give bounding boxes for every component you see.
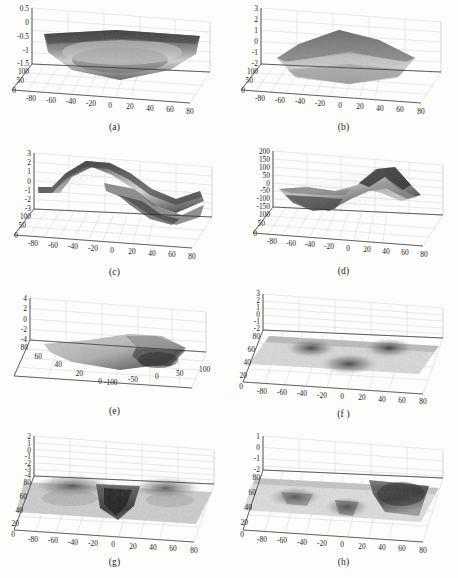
- tick-x: 80: [417, 107, 425, 116]
- tick-x: 0: [338, 101, 342, 110]
- tick-z: 2: [27, 158, 31, 167]
- tick-x: 40: [376, 104, 384, 113]
- tick-x: -80: [257, 535, 267, 544]
- panel-caption-f: (f ): [229, 409, 458, 419]
- panel-caption-b: (b): [229, 122, 458, 132]
- tick-x: 60: [166, 105, 174, 114]
- tick-z: 2: [254, 15, 258, 24]
- tick-x: 60: [398, 396, 406, 405]
- tick-x: -60: [277, 388, 287, 397]
- tick-z: 1: [27, 167, 31, 176]
- tick-x: -40: [68, 242, 78, 251]
- tick-z: -0.5: [17, 32, 29, 41]
- tick-y: 100: [18, 67, 29, 76]
- panel-caption-d: (d): [229, 266, 458, 276]
- tick-x: -80: [255, 94, 265, 103]
- tick-x: -20: [324, 242, 334, 251]
- tick-x: -60: [286, 239, 296, 248]
- tick-y: 60: [20, 492, 28, 501]
- tick-x: 80: [419, 546, 427, 555]
- tick-x: 0: [346, 244, 350, 253]
- tick-x: 100: [199, 365, 210, 374]
- tick-z: 1: [254, 26, 258, 35]
- tick-x: -50: [128, 375, 138, 384]
- tick-x: 50: [176, 369, 184, 378]
- tick-z: -2: [25, 195, 31, 204]
- tick-y: 0: [98, 377, 102, 386]
- panel-caption-e: (e): [0, 406, 229, 416]
- tick-y: 100: [20, 212, 31, 221]
- tick-x: 0: [111, 540, 115, 549]
- tick-x: 60: [168, 250, 176, 259]
- tick-x: 80: [420, 250, 428, 259]
- tick-y: 0: [239, 382, 243, 391]
- tick-x: -60: [46, 96, 56, 105]
- tick-y: 40: [245, 503, 253, 512]
- tick-x: -40: [66, 97, 76, 106]
- tick-x: 80: [419, 397, 427, 406]
- tick-x: 80: [188, 252, 196, 261]
- tick-x: 40: [378, 543, 386, 552]
- tick-x: 60: [169, 544, 177, 553]
- tick-x: 20: [358, 542, 366, 551]
- tick-x: 80: [186, 107, 194, 116]
- tick-y: 80: [253, 473, 261, 482]
- tick-x: -80: [28, 535, 38, 544]
- tick-x: -100: [104, 378, 118, 387]
- panel-c: 3 2 1 0 -1 -2 -3 100 50 0 -80 -60 -40 -2…: [0, 145, 229, 290]
- tick-z: -2: [21, 325, 27, 334]
- tick-x: 0: [340, 540, 344, 549]
- tick-x: -40: [305, 240, 315, 249]
- tick-x: 40: [149, 543, 157, 552]
- tick-x: -60: [48, 536, 58, 545]
- panel-f: 3 2 1 0 -1 -2 80 60 40 20 0 -80 -60 -40 …: [229, 290, 458, 430]
- tick-x: -60: [48, 241, 58, 250]
- panel-g: 2 1 0 -1 -2 -3 -4 80 60 40 20 0 -80 -60 …: [0, 430, 229, 578]
- tick-y: 60: [35, 352, 43, 361]
- tick-x: 0: [110, 246, 114, 255]
- panel-e: 4 2 0 -2 -4 80 60 40 20 0 -100 -50 0 50 …: [0, 290, 229, 430]
- tick-y: 0: [12, 86, 16, 95]
- tick-x: 40: [148, 249, 156, 258]
- tick-y: 80: [21, 343, 29, 352]
- panel-b: 3 2 1 0 -1 -2 100 50 0 -80 -60 -40 -20 0…: [229, 0, 458, 145]
- tick-y: 0: [241, 86, 245, 95]
- panel-g-plot: 2 1 0 -1 -2 -3 -4 80 60 40 20 0 -80 -60 …: [0, 430, 229, 578]
- tick-x: 20: [126, 102, 134, 111]
- tick-x: 60: [401, 248, 409, 257]
- tick-x: -20: [317, 391, 327, 400]
- tick-z: 0: [256, 443, 260, 452]
- tick-y: 50: [258, 219, 266, 228]
- tick-x: -60: [275, 96, 285, 105]
- tick-x: 40: [382, 247, 390, 256]
- tick-z: -1: [23, 46, 29, 55]
- tick-x: -80: [26, 94, 36, 103]
- tick-z: 0.5: [20, 4, 30, 13]
- tick-x: -20: [315, 99, 325, 108]
- tick-y: 20: [12, 519, 20, 528]
- tick-x: 40: [146, 104, 154, 113]
- tick-x: 0: [108, 101, 112, 110]
- tick-x: -40: [68, 538, 78, 547]
- tick-y: 100: [247, 67, 258, 76]
- tick-y: 0: [253, 229, 257, 238]
- tick-y: 40: [16, 506, 24, 515]
- panel-caption-g: (g): [0, 557, 229, 567]
- panel-h-plot: 1 0 -1 -2 80 60 40 20 0 -80 -60 -40 -20 …: [229, 430, 458, 578]
- tick-x: 60: [398, 544, 406, 553]
- tick-z: 0: [25, 18, 29, 27]
- tick-z: 1: [256, 432, 260, 441]
- tick-x: 20: [358, 393, 366, 402]
- tick-y: 50: [17, 76, 25, 85]
- tick-x: -20: [86, 99, 96, 108]
- tick-x: 80: [190, 546, 198, 555]
- panel-caption-h: (h): [229, 557, 458, 567]
- tick-x: -80: [267, 237, 277, 246]
- tick-x: 20: [129, 542, 137, 551]
- tick-y: 40: [244, 358, 252, 367]
- tick-x: -60: [277, 536, 287, 545]
- tick-x: -40: [297, 538, 307, 547]
- tick-y: 0: [14, 231, 18, 240]
- tick-y: 0: [11, 530, 15, 539]
- tick-y: 0: [240, 530, 244, 539]
